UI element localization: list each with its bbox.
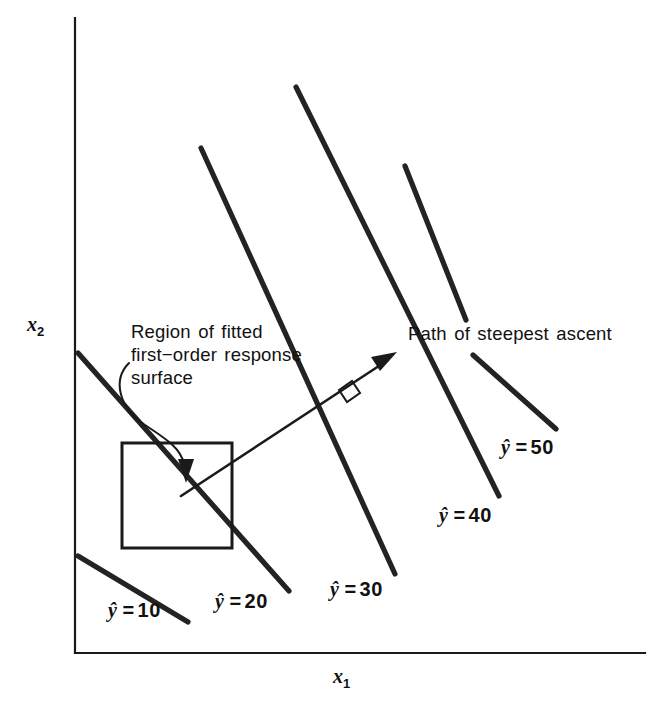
contour-label-50: ŷ=50 [501, 435, 554, 460]
yhat-symbol: ŷ [108, 599, 118, 621]
yhat-symbol: ŷ [501, 436, 511, 458]
contour-line-50-upper [405, 166, 466, 320]
contour-label-30: ŷ=30 [330, 577, 383, 602]
contour-line-40 [296, 87, 499, 496]
equals-sign: = [340, 578, 359, 600]
contour-value: 20 [245, 590, 268, 612]
region-annotation: Region of fitted first−order response su… [131, 320, 302, 389]
x-axis-label: x1 [333, 664, 350, 692]
ascent-annotation-line-1: Path of steepest ascent [408, 322, 612, 345]
contour-value: 10 [138, 599, 161, 621]
yhat-symbol: ŷ [215, 590, 225, 612]
ascent-annotation: Path of steepest ascent [408, 322, 612, 345]
figure-container: x2 x1 Region of fitted first−order respo… [0, 0, 653, 708]
region-annotation-line-3: surface [131, 366, 302, 389]
y-axis-label: x2 [27, 312, 44, 340]
contour-label-40: ŷ=40 [439, 503, 492, 528]
contour-line-50-lower [473, 355, 556, 429]
contour-value: 40 [469, 504, 492, 526]
y-axis-label-sub: 2 [37, 324, 44, 339]
contour-value: 50 [531, 436, 554, 458]
contour-label-10: ŷ=10 [108, 598, 161, 623]
x-axis-label-base: x [333, 665, 343, 687]
fitted-region-box [122, 443, 232, 548]
yhat-symbol: ŷ [439, 504, 449, 526]
yhat-symbol: ŷ [330, 578, 340, 600]
equals-sign: = [511, 436, 530, 458]
y-axis-label-base: x [27, 313, 37, 335]
region-annotation-line-1: Region of fitted [131, 320, 302, 343]
figure-canvas [0, 0, 653, 708]
equals-sign: = [449, 504, 468, 526]
contour-value: 30 [360, 578, 383, 600]
region-annotation-line-2: first−order response [131, 343, 302, 366]
equals-sign: = [225, 590, 244, 612]
contour-label-20: ŷ=20 [215, 589, 268, 614]
x-axis-label-sub: 1 [343, 676, 350, 691]
equals-sign: = [118, 599, 137, 621]
